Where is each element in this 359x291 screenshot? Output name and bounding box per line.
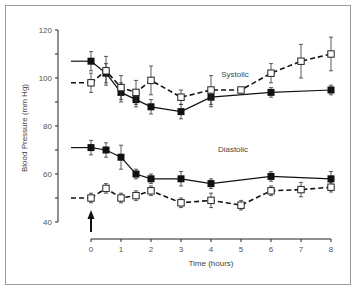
data-point [298,186,304,192]
data-point [268,70,274,76]
data-point [148,103,155,110]
y-tick-label: 60 [43,170,52,179]
series-0 [71,52,335,119]
y-tick-label: 120 [39,26,53,35]
axes: 406080100120012345678 [39,26,334,254]
data-point [148,188,154,194]
data-point [118,84,124,90]
series-3 [71,182,334,210]
x-tick-label: 8 [329,245,334,254]
x-tick-label: 3 [179,245,184,254]
plot-area [71,37,335,210]
data-point [328,51,334,57]
data-point [133,192,139,198]
x-tick-label: 4 [209,245,214,254]
data-point [148,77,154,83]
data-point [103,147,110,154]
data-point [178,200,184,206]
systolic-label: Systolic [221,70,249,79]
series-2 [71,140,335,188]
data-point [118,195,124,201]
y-tick-label: 80 [43,122,52,131]
x-tick-label: 5 [239,245,244,254]
data-point [298,58,304,64]
data-point [268,188,274,194]
data-point [118,154,125,161]
x-tick-label: 6 [269,245,274,254]
data-point [178,175,185,182]
blood-pressure-chart: 406080100120012345678 Systolic Diastolic… [0,0,359,291]
data-point [148,175,155,182]
data-point [178,108,185,115]
data-point [328,175,335,182]
x-tick-label: 2 [149,245,154,254]
data-point [208,180,215,187]
data-point [208,87,214,93]
data-point [88,195,94,201]
x-axis-label: Time (hours) [188,259,233,268]
diastolic-label: Diastolic [218,145,248,154]
data-point [88,58,95,65]
data-point [268,173,275,180]
data-point [238,202,244,208]
y-axis-label: Blood Pressure (mm Hg) [20,84,29,172]
data-point [103,68,109,74]
data-point [328,184,334,190]
data-point [133,89,139,95]
x-tick-label: 7 [299,245,304,254]
data-point [328,87,335,94]
y-tick-label: 40 [43,218,52,227]
data-point [238,87,244,93]
x-tick-label: 0 [89,245,94,254]
data-point [268,89,275,96]
data-point [133,171,140,178]
series-1 [71,37,334,104]
y-tick-label: 100 [39,74,53,83]
data-point [178,94,184,100]
x-tick-label: 1 [119,245,124,254]
data-point [208,197,214,203]
data-point [88,144,95,151]
data-point [88,80,94,86]
data-point [103,185,109,191]
dose-arrow-icon [88,210,95,232]
